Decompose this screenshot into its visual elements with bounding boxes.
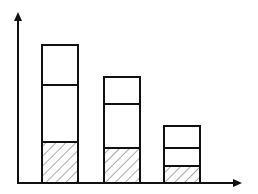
bar-2-segment-2 [104, 104, 140, 148]
bar-3-segment-1 [164, 166, 200, 183]
x-axis-arrow-icon [233, 179, 242, 187]
bar-2-segment-3 [104, 77, 140, 104]
bar-3-segment-2 [164, 148, 200, 166]
stacked-bar-chart [0, 0, 258, 194]
bar-1-segment-3 [42, 45, 78, 85]
y-axis-arrow-icon [14, 12, 22, 21]
bars-group [42, 45, 200, 183]
bar-1-segment-1 [42, 142, 78, 183]
bar-1-segment-2 [42, 85, 78, 142]
bar-2-segment-1 [104, 148, 140, 183]
bar-3-segment-3 [164, 126, 200, 148]
